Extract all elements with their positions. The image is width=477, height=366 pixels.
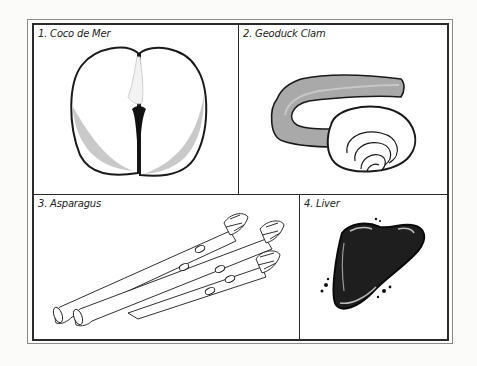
geoduck-clam-illustration bbox=[239, 25, 447, 195]
panel-coco-de-mer: 1. Coco de Mer bbox=[34, 25, 239, 195]
asparagus-illustration bbox=[34, 195, 300, 339]
panel-asparagus: 3. Asparagus bbox=[34, 195, 300, 339]
coco-de-mer-illustration bbox=[34, 25, 239, 195]
panel-geoduck-clam: 2. Geoduck Clam bbox=[239, 25, 447, 195]
illustration-grid: 1. Coco de Mer 2. Geoduck Clam bbox=[32, 23, 449, 341]
liver-illustration bbox=[300, 195, 447, 339]
panel-liver: 4. Liver bbox=[300, 195, 447, 339]
